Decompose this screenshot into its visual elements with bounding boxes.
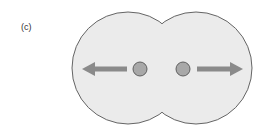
left-dot (133, 62, 147, 76)
right-dot (176, 62, 190, 76)
diagram-canvas (0, 0, 266, 129)
